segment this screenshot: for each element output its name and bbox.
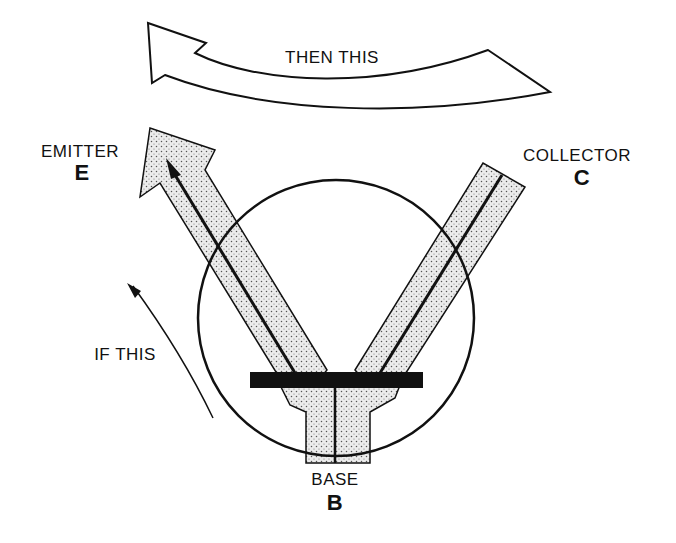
base-letter-label: B [315, 490, 355, 516]
if-this-label: IF THIS [80, 345, 170, 365]
collector-name-label: COLLECTOR [512, 146, 642, 166]
collector-letter-label: C [562, 165, 602, 191]
emitter-lead-line [172, 170, 295, 373]
then-this-label: THEN THIS [262, 48, 402, 68]
collector-lead-line [380, 175, 502, 373]
emitter-name-label: EMITTER [25, 142, 135, 162]
emitter-letter-label: E [62, 160, 102, 186]
if-this-arrowhead-icon [127, 283, 141, 298]
base-bar [250, 372, 423, 388]
transistor-diagram [0, 0, 676, 543]
base-name-label: BASE [300, 470, 370, 490]
